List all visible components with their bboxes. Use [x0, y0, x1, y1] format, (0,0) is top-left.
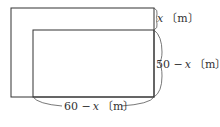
label-50-minus-x: 50 −x〔m〕: [156, 58, 220, 71]
label-x: x〔m〕: [157, 12, 199, 25]
label-60-minus-x: 60 −x〔m〕: [64, 100, 134, 113]
diagram-canvas: x〔m〕 50 −x〔m〕 60 −x〔m〕: [0, 0, 220, 127]
outer-rectangle: [11, 8, 154, 97]
inner-rectangle: [33, 30, 154, 97]
